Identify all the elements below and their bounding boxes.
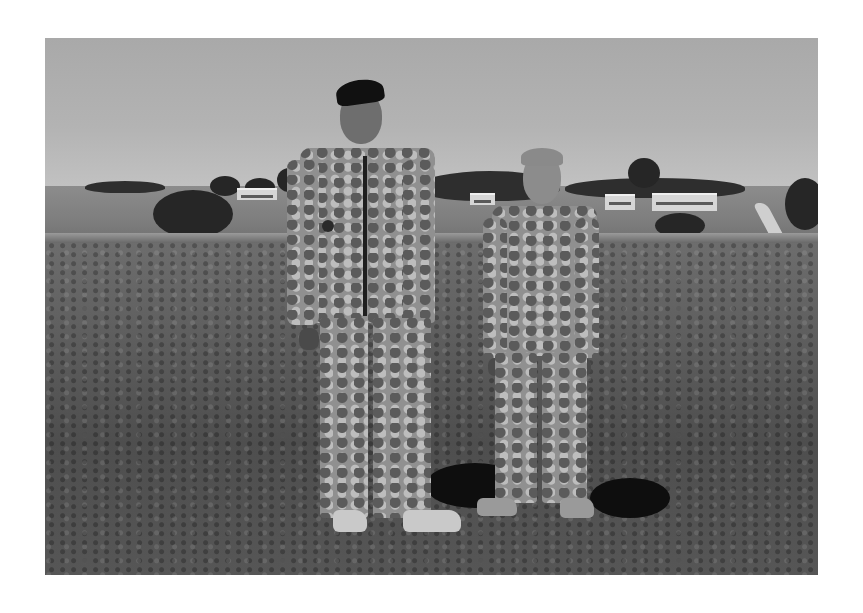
tree-right-edge [785,178,818,230]
child-right-shoe [560,498,594,518]
tree-tall [628,158,660,188]
adult-soldier [285,78,475,538]
adult-right-arm [403,160,435,320]
child-left-shoe [477,498,517,516]
child-right-arm [575,218,599,358]
child-left-arm [483,218,507,358]
building [605,194,635,210]
child [480,148,605,533]
adult-right-leg [373,318,431,518]
child-hair [521,148,563,166]
treeline-left [85,181,165,193]
child-right-leg [542,353,587,503]
building [237,188,277,200]
photograph [45,38,818,575]
adult-left-arm [287,160,319,325]
adult-left-hand [299,328,319,350]
shoulder-patch [322,220,334,232]
adult-left-leg [320,318,368,518]
jacket-zipper [363,156,367,316]
adult-left-boot [333,510,367,532]
adult-right-boot [403,510,461,532]
child-left-leg [495,353,537,503]
bush-left [153,190,233,238]
building [652,193,717,211]
